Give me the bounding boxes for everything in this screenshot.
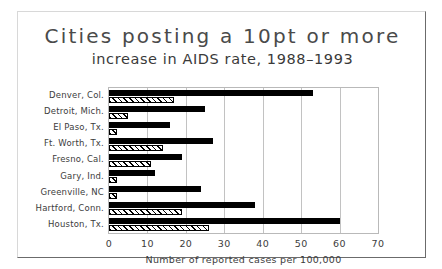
y-axis-tick-label: Houston, Tx.: [48, 219, 104, 229]
x-axis-tick-label: 0: [106, 238, 112, 249]
bar-solid: [109, 154, 182, 160]
plot-area: Denver, Col.Detroit, Mich.El Paso, Tx.Ft…: [108, 87, 379, 234]
bar-solid: [109, 202, 255, 208]
bar-group: El Paso, Tx.: [109, 120, 378, 136]
bar-solid: [109, 170, 155, 176]
bar-hatched: [109, 209, 182, 215]
bar-hatched: [109, 225, 209, 231]
y-axis-tick-label: Hartford, Conn.: [36, 203, 104, 213]
bar-group: Houston, Tx.: [109, 217, 378, 233]
bar-hatched: [109, 97, 174, 103]
bar-hatched: [109, 129, 117, 135]
bar-solid: [109, 138, 213, 144]
bar-solid: [109, 186, 201, 192]
x-axis-tick-label: 30: [218, 238, 231, 249]
bar-group: Denver, Col.: [109, 88, 378, 104]
y-axis-tick-label: Greenville, NC: [40, 187, 104, 197]
bar-group: Hartford, Conn.: [109, 201, 378, 217]
bar-solid: [109, 106, 205, 112]
bar-group: Ft. Worth, Tx.: [109, 136, 378, 152]
chart-title-sub: increase in AIDS rate, 1988–1993: [18, 50, 427, 69]
bar-solid: [109, 90, 313, 96]
x-axis-tick-label: 70: [372, 238, 385, 249]
plot-wrapper: Cities posting a 10pt or more increase i…: [18, 12, 427, 259]
bar-group: Gary, Ind.: [109, 169, 378, 185]
chart-title-block: Cities posting a 10pt or more increase i…: [18, 24, 427, 69]
chart-title-main: Cities posting a 10pt or more: [18, 24, 427, 48]
bar-hatched: [109, 161, 151, 167]
y-axis-tick-label: Detroit, Mich.: [44, 106, 104, 116]
bar-group: Fresno, Cal.: [109, 152, 378, 168]
x-axis-tick-label: 20: [179, 238, 192, 249]
y-axis-tick-label: Fresno, Cal.: [52, 154, 104, 164]
bar-hatched: [109, 177, 117, 183]
figure-frame: Cities posting a 10pt or more increase i…: [17, 11, 426, 258]
bar-hatched: [109, 193, 117, 199]
bar-group: Detroit, Mich.: [109, 104, 378, 120]
bar-solid: [109, 122, 170, 128]
y-axis-tick-label: Gary, Ind.: [60, 171, 104, 181]
bar-hatched: [109, 145, 163, 151]
y-axis-tick-label: Ft. Worth, Tx.: [44, 138, 104, 148]
x-axis-tick-label: 40: [256, 238, 269, 249]
x-axis-label: Number of reported cases per 100,000: [109, 254, 378, 265]
bar-group: Greenville, NC: [109, 185, 378, 201]
x-axis-tick-label: 50: [295, 238, 308, 249]
y-axis-tick-label: El Paso, Tx.: [53, 122, 104, 132]
x-axis-tick-label: 10: [141, 238, 154, 249]
bar-hatched: [109, 113, 128, 119]
y-axis-tick-label: Denver, Col.: [49, 90, 104, 100]
bar-solid: [109, 218, 340, 224]
x-axis-tick-label: 60: [333, 238, 346, 249]
